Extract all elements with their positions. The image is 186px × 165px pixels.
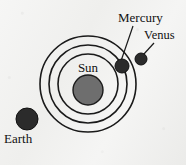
earth-body [16,108,38,130]
label-mercury: Mercury [118,10,163,25]
leader-line-venus [143,43,154,55]
label-venus: Venus [144,28,175,42]
label-sun: Sun [78,60,99,75]
mercury-body [115,59,129,73]
sun-body [73,75,103,105]
diagram-canvas: Sun Mercury Venus Earth [0,0,186,165]
label-earth: Earth [4,131,33,146]
orbital-diagram-figure: Sun Mercury Venus Earth [0,0,186,165]
venus-body [135,53,147,65]
